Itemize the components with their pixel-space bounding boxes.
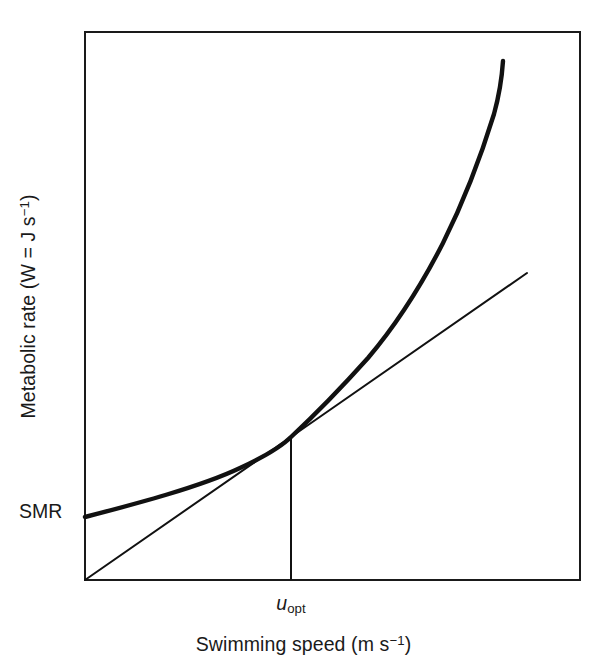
- uopt-symbol: u: [276, 592, 287, 614]
- tangent-line: [85, 273, 527, 580]
- uopt-subscript: opt: [287, 601, 305, 616]
- y-axis-title-prefix: Metabolic rate (W = J s: [17, 216, 39, 418]
- plot-canvas: [0, 0, 607, 667]
- uopt-annotation-label: uopt: [251, 592, 331, 615]
- metabolic-rate-curve: [85, 61, 503, 517]
- y-axis-title: Metabolic rate (W = J s−1): [17, 194, 40, 418]
- x-axis-title-prefix: Swimming speed (m s: [196, 633, 390, 655]
- smr-annotation-label: SMR: [19, 500, 62, 523]
- metabolic-rate-figure: Swimming speed (m s−1) Metabolic rate (W…: [0, 0, 607, 667]
- x-axis-title-suffix: ): [405, 633, 412, 655]
- y-axis-title-suffix: ): [17, 194, 39, 201]
- x-axis-title-exponent: −1: [389, 633, 404, 648]
- x-axis-title: Swimming speed (m s−1): [0, 633, 607, 656]
- y-axis-title-exponent: −1: [17, 201, 32, 216]
